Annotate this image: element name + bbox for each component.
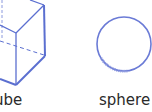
sphere-label: sphere bbox=[99, 93, 150, 108]
sphere-icon bbox=[97, 17, 151, 71]
cube-label: ube bbox=[0, 93, 22, 108]
cube-icon bbox=[0, 0, 45, 85]
